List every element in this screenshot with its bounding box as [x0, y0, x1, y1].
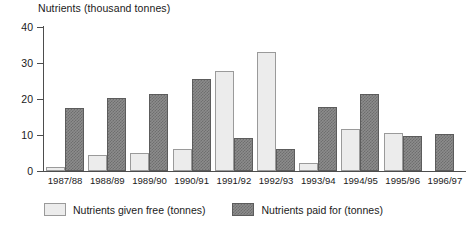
legend-swatch-paid-for [232, 203, 254, 216]
y-axis-tick-label: 10 [0, 130, 33, 140]
bar-group [424, 27, 466, 171]
legend-label: Nutrients paid for (tonnes) [261, 204, 382, 216]
x-axis-tick-label: 1987/88 [44, 175, 86, 186]
legend-swatch-given-free [44, 203, 66, 216]
x-axis-tick-label: 1991/92 [213, 175, 255, 186]
bar-group [213, 27, 255, 171]
bar-paid-for[interactable] [149, 94, 168, 171]
bar-given-free[interactable] [257, 52, 276, 171]
bar-paid-for[interactable] [234, 138, 253, 171]
chart-title: Nutrients (thousand tonnes) [38, 2, 170, 14]
bar-paid-for[interactable] [65, 108, 84, 171]
x-axis-tick-label: 1989/90 [128, 175, 170, 186]
bar-group [382, 27, 424, 171]
bar-paid-for[interactable] [435, 134, 454, 171]
plot-area [44, 27, 466, 171]
y-axis-tick-label: 0 [0, 166, 33, 176]
bar-group [171, 27, 213, 171]
legend-item[interactable]: Nutrients paid for (tonnes) [232, 203, 382, 216]
bar-group [128, 27, 170, 171]
legend-item[interactable]: Nutrients given free (tonnes) [44, 203, 205, 216]
y-axis-tick-label: 40 [0, 22, 33, 32]
y-axis-tick [37, 135, 44, 136]
y-axis-tick-label: 20 [0, 94, 33, 104]
x-axis-tick-label: 1988/89 [86, 175, 128, 186]
y-axis-tick [37, 63, 44, 64]
bar-group [86, 27, 128, 171]
y-axis-tick-label: 30 [0, 58, 33, 68]
bar-given-free[interactable] [46, 167, 65, 171]
bar-given-free[interactable] [88, 155, 107, 171]
x-axis-tick-label: 1995/96 [382, 175, 424, 186]
bar-group [339, 27, 381, 171]
x-axis-tick-label: 1993/94 [297, 175, 339, 186]
bar-given-free[interactable] [173, 149, 192, 171]
bar-given-free[interactable] [130, 153, 149, 171]
x-axis-tick-label: 1996/97 [424, 175, 466, 186]
bar-given-free[interactable] [215, 71, 234, 171]
bar-paid-for[interactable] [360, 94, 379, 171]
y-axis-tick [37, 27, 44, 28]
bar-group [255, 27, 297, 171]
bar-chart: Nutrients (thousand tonnes) 010203040 19… [0, 0, 472, 236]
y-axis-tick [37, 99, 44, 100]
x-axis-line [43, 171, 466, 172]
y-axis-tick [37, 171, 44, 172]
bar-paid-for[interactable] [107, 98, 126, 171]
bar-given-free[interactable] [384, 133, 403, 171]
bar-paid-for[interactable] [276, 149, 295, 171]
bar-given-free[interactable] [299, 163, 318, 171]
legend-label: Nutrients given free (tonnes) [73, 204, 205, 216]
x-axis-tick-label: 1994/95 [339, 175, 381, 186]
bar-paid-for[interactable] [403, 136, 422, 171]
chart-legend: Nutrients given free (tonnes)Nutrients p… [44, 203, 383, 216]
x-axis-tick-label: 1992/93 [255, 175, 297, 186]
bar-group [297, 27, 339, 171]
x-axis-tick-label: 1990/91 [171, 175, 213, 186]
bar-given-free[interactable] [341, 129, 360, 171]
bar-paid-for[interactable] [318, 107, 337, 171]
bar-group [44, 27, 86, 171]
bar-paid-for[interactable] [192, 79, 211, 171]
